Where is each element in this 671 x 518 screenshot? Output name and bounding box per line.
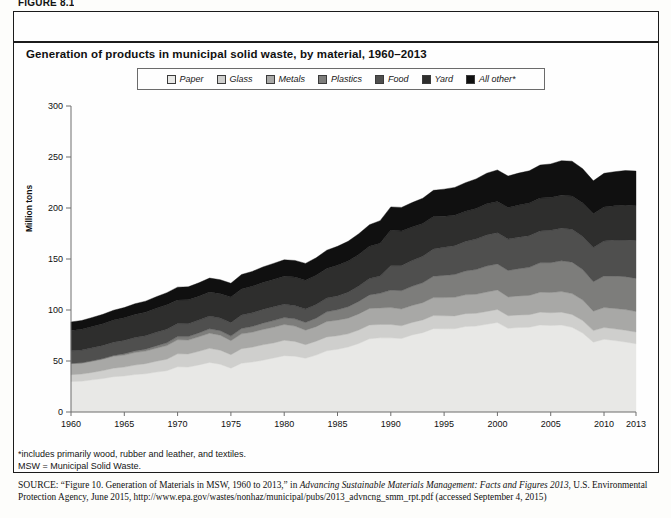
legend-label: Yard	[435, 74, 453, 84]
x-tick-label: 2013	[626, 419, 646, 429]
source-label: SOURCE:	[18, 479, 59, 490]
source-publication-title: Advancing Sustainable Materials Manageme…	[300, 480, 569, 490]
legend-item-paper: Paper	[167, 74, 204, 84]
legend-item-all-other: All other*	[466, 74, 516, 84]
legend-label: Paper	[180, 74, 204, 84]
legend-swatch-icon	[266, 75, 275, 84]
x-tick-label: 1985	[327, 419, 347, 429]
y-tick-label: 100	[48, 305, 63, 315]
legend-label: Metals	[279, 74, 306, 84]
y-tick-label: 300	[48, 101, 63, 111]
source-note: SOURCE: “Figure 10. Generation of Materi…	[18, 479, 663, 503]
title-divider	[14, 41, 658, 43]
chart-title: Generation of products in municipal soli…	[26, 48, 427, 60]
legend-swatch-icon	[422, 75, 431, 84]
x-tick-label: 1965	[114, 419, 134, 429]
chart-notes: *includes primarily wood, rubber and lea…	[18, 449, 246, 472]
figure-number: FIGURE 8.1	[18, 0, 74, 9]
legend-item-yard: Yard	[422, 74, 453, 84]
y-tick-label: 0	[58, 407, 63, 417]
legend-swatch-icon	[217, 75, 226, 84]
legend-item-glass: Glass	[217, 74, 253, 84]
legend-swatch-icon	[318, 75, 327, 84]
legend-label: Glass	[230, 74, 253, 84]
source-part-1: “Figure 10. Generation of Materials in M…	[59, 480, 300, 490]
plot-area: Million tons 050100150200250300196019651…	[26, 98, 648, 450]
legend-item-plastics: Plastics	[318, 74, 362, 84]
legend-swatch-icon	[466, 75, 475, 84]
x-tick-label: 1975	[221, 419, 241, 429]
x-tick-label: 1970	[168, 419, 188, 429]
legend-item-food: Food	[375, 74, 409, 84]
x-tick-label: 1995	[434, 419, 454, 429]
legend-item-metals: Metals	[266, 74, 306, 84]
chart-legend: PaperGlassMetalsPlasticsFoodYardAll othe…	[137, 68, 545, 90]
x-tick-label: 1980	[274, 419, 294, 429]
x-tick-label: 2000	[487, 419, 507, 429]
x-tick-label: 2010	[594, 419, 614, 429]
x-tick-label: 1960	[61, 419, 81, 429]
abbreviation-text: MSW = Municipal Solid Waste.	[18, 461, 246, 473]
footnote-text: *includes primarily wood, rubber and lea…	[18, 449, 246, 461]
stacked-area-chart: 0501001502002503001960196519701975198019…	[26, 98, 648, 450]
legend-swatch-icon	[375, 75, 384, 84]
figure-page: FIGURE 8.1 Generation of products in mun…	[0, 0, 671, 518]
legend-label: Plastics	[331, 74, 362, 84]
legend-swatch-icon	[167, 75, 176, 84]
y-tick-label: 50	[53, 356, 63, 366]
y-tick-label: 200	[48, 203, 63, 213]
legend-label: Food	[388, 74, 409, 84]
x-tick-label: 2005	[541, 419, 561, 429]
legend-label: All other*	[479, 74, 516, 84]
y-tick-label: 150	[48, 254, 63, 264]
x-tick-label: 1990	[381, 419, 401, 429]
y-tick-label: 250	[48, 152, 63, 162]
figure-box: Generation of products in municipal soli…	[13, 11, 659, 473]
